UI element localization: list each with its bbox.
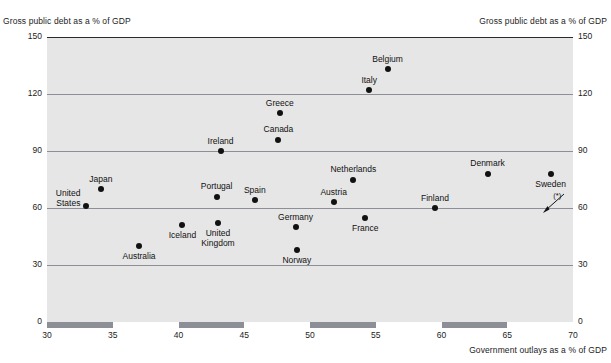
data-point-label: Denmark <box>470 159 504 169</box>
data-point-label: Canada <box>264 125 294 135</box>
data-point-label: Netherlands <box>330 165 376 175</box>
x-axis-title: Government outlays as a % of GDP <box>469 345 607 355</box>
data-point-label: France <box>352 224 378 234</box>
data-point-dot <box>136 243 142 249</box>
data-point-label: Portugal <box>201 182 233 192</box>
data-point-label: Sweden <box>535 180 566 190</box>
data-point-label: Italy <box>361 76 377 86</box>
gridline <box>47 94 573 95</box>
data-point-label: Germany <box>278 213 313 223</box>
x-tick-label: 40 <box>159 330 199 340</box>
data-point-label: United Kingdom <box>201 229 235 248</box>
data-point-dot <box>331 199 337 205</box>
data-point-dot <box>218 148 224 154</box>
y-tick-label: 150 <box>578 31 611 41</box>
x-axis-ticks: 303540455055606570 <box>47 330 573 344</box>
data-point-dot <box>350 177 356 183</box>
x-axis-band-strip <box>47 322 573 328</box>
data-point-label: Spain <box>244 186 266 196</box>
y-tick-label: 30 <box>578 259 611 269</box>
y-tick-label: 120 <box>578 88 611 98</box>
x-tick-label: 60 <box>422 330 462 340</box>
y-tick-label: 150 <box>2 31 42 41</box>
data-point-dot <box>432 205 438 211</box>
plot-area <box>47 37 573 322</box>
y-tick-label: 0 <box>2 316 42 326</box>
x-axis-band <box>442 322 508 328</box>
y-tick-label: 90 <box>578 145 611 155</box>
y-axis-title-right: Gross public debt as a % of GDP <box>479 16 607 26</box>
y-tick-label: 120 <box>2 88 42 98</box>
x-tick-label: 55 <box>356 330 396 340</box>
data-point-label: Austria <box>320 188 346 198</box>
data-point-label: Finland <box>421 194 449 204</box>
data-point-dot <box>485 171 491 177</box>
x-tick-label: 50 <box>290 330 330 340</box>
data-point-label: Norway <box>282 256 311 266</box>
data-point-label: Belgium <box>372 55 403 65</box>
data-point-label: Japan <box>89 175 112 185</box>
x-tick-label: 65 <box>487 330 527 340</box>
gridline <box>47 37 573 38</box>
x-tick-label: 35 <box>93 330 133 340</box>
x-axis-band <box>47 322 113 328</box>
x-axis-band <box>310 322 376 328</box>
data-point-label: Greece <box>266 99 294 109</box>
data-point-dot <box>294 247 300 253</box>
y-tick-label: 60 <box>2 202 42 212</box>
data-point-dot <box>277 110 283 116</box>
footnote-marker: (*) <box>553 191 561 200</box>
y-tick-label: 60 <box>578 202 611 212</box>
y-tick-label: 0 <box>578 316 611 326</box>
x-tick-label: 70 <box>553 330 593 340</box>
data-point-dot <box>548 171 554 177</box>
data-point-dot <box>98 186 104 192</box>
data-point-label: Ireland <box>208 137 234 147</box>
data-point-label: Iceland <box>169 231 196 241</box>
gridline <box>47 151 573 152</box>
x-tick-label: 30 <box>27 330 67 340</box>
y-axis-title-left: Gross public debt as a % of GDP <box>3 16 131 26</box>
data-point-label: United States <box>56 189 81 208</box>
gridline <box>47 208 573 209</box>
data-point-dot <box>385 66 391 72</box>
data-point-dot <box>214 194 220 200</box>
data-point-dot <box>362 215 368 221</box>
scatter-chart: Gross public debt as a % of GDP Gross pu… <box>0 0 611 363</box>
data-point-label: Australia <box>123 252 156 262</box>
data-point-dot <box>293 224 299 230</box>
y-tick-label: 90 <box>2 145 42 155</box>
y-tick-label: 30 <box>2 259 42 269</box>
x-axis-band <box>179 322 245 328</box>
x-tick-label: 45 <box>224 330 264 340</box>
